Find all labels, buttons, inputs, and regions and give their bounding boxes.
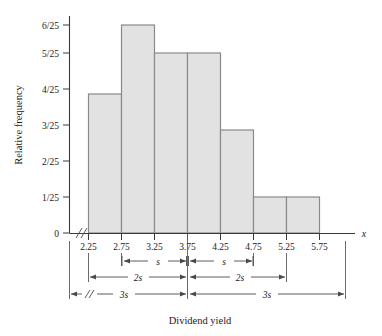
2s-left-arrow-start bbox=[90, 275, 96, 280]
s-right-arrow-end bbox=[246, 259, 252, 264]
x-tick-label-4.75: 4.75 bbox=[245, 242, 262, 252]
histogram-figure: 0 1/25 2/25 3/25 4/25 5/25 6/25 Relative… bbox=[0, 0, 382, 336]
y-tick-label-6-25: 6/25 bbox=[42, 21, 59, 31]
x-tick-label-2.75: 2.75 bbox=[113, 242, 130, 252]
bar-5.25-5.75 bbox=[287, 197, 320, 233]
s-left-label: s bbox=[156, 257, 160, 267]
y-tick-label-4-25: 4/25 bbox=[42, 85, 59, 95]
histogram-svg: 0 1/25 2/25 3/25 4/25 5/25 6/25 Relative… bbox=[0, 0, 382, 336]
s-left-arrow-end bbox=[180, 259, 186, 264]
x-tick-label-5.75: 5.75 bbox=[311, 242, 328, 252]
3s-left-label: 3s bbox=[119, 290, 129, 300]
histogram-bars bbox=[89, 25, 320, 233]
2s-right-arrow-start bbox=[190, 275, 196, 280]
annotation-row-3s: 3s 3s bbox=[71, 290, 344, 300]
3s-left-break-icon bbox=[85, 290, 94, 298]
bar-4.75-5.25 bbox=[254, 197, 287, 233]
annotation-guide-lines bbox=[70, 234, 346, 299]
bar-2.25-2.75 bbox=[89, 94, 122, 233]
y-tick-label-1-25: 1/25 bbox=[42, 193, 59, 203]
2s-right-arrow-end bbox=[279, 275, 285, 280]
3s-right-label: 3s bbox=[262, 290, 272, 300]
x-tick-label-5.25: 5.25 bbox=[278, 242, 295, 252]
s-right-arrow-start bbox=[190, 259, 196, 264]
y-tick-label-2-25: 2/25 bbox=[42, 157, 59, 167]
s-left-arrow-start bbox=[124, 259, 130, 264]
3s-right-arrow-end bbox=[338, 292, 344, 297]
x-axis-title: Dividend yield bbox=[169, 315, 232, 326]
y-tick-label-3-25: 3/25 bbox=[42, 121, 59, 131]
y-axis: 0 1/25 2/25 3/25 4/25 5/25 6/25 Relative… bbox=[13, 16, 70, 239]
2s-left-label: 2s bbox=[134, 273, 143, 283]
3s-right-arrow-start bbox=[190, 292, 196, 297]
s-right-label: s bbox=[222, 257, 226, 267]
bar-4.25-4.75 bbox=[221, 130, 254, 233]
y-tick-label-5-25: 5/25 bbox=[42, 49, 59, 59]
bar-3.25-3.75 bbox=[155, 53, 188, 233]
2s-right-label: 2s bbox=[236, 273, 245, 283]
x-tick-label-2.25: 2.25 bbox=[80, 242, 97, 252]
y-tick-label-0: 0 bbox=[54, 229, 59, 239]
bar-3.75-4.25 bbox=[188, 53, 221, 233]
bar-2.75-3.25 bbox=[122, 25, 155, 233]
3s-left-arrow-end bbox=[180, 292, 186, 297]
3s-left-arrow-start bbox=[71, 292, 77, 297]
x-tick-label-4.25: 4.25 bbox=[212, 242, 229, 252]
x-tick-label-3.25: 3.25 bbox=[146, 242, 163, 252]
x-axis-variable-label: x bbox=[361, 228, 367, 239]
2s-left-arrow-end bbox=[180, 275, 186, 280]
y-axis-title: Relative frequency bbox=[13, 84, 24, 164]
